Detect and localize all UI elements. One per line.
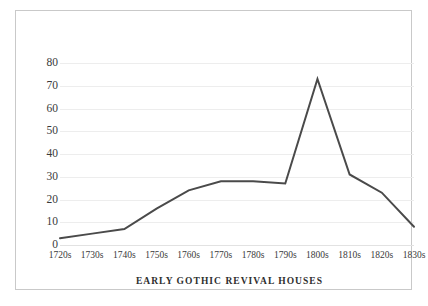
- line-series: [60, 63, 414, 245]
- y-tick-label-20: 20: [47, 194, 59, 206]
- x-tick-label-1770s: 1770s: [210, 251, 233, 261]
- y-axis-tick-labels: 01020304050607080: [31, 63, 58, 245]
- y-tick-label-80: 80: [47, 57, 59, 69]
- y-tick-label-30: 30: [47, 171, 59, 183]
- x-axis-tick-labels: 1720s1730s1740s1750s1760s1770s1780s1790s…: [60, 251, 414, 267]
- x-tick-label-1800s: 1800s: [306, 251, 329, 261]
- x-tick-label-1740s: 1740s: [113, 251, 136, 261]
- chart-figure: 01020304050607080 1720s1730s1740s1750s17…: [0, 0, 428, 306]
- x-tick-label-1830s: 1830s: [403, 251, 426, 261]
- x-tick-label-1790s: 1790s: [274, 251, 297, 261]
- x-tick-label-1760s: 1760s: [177, 251, 200, 261]
- chart-title: EARLY GOTHIC REVIVAL HOUSES: [32, 276, 427, 286]
- x-tick-label-1810s: 1810s: [338, 251, 361, 261]
- series-polyline: [60, 79, 414, 238]
- gridline-0: [60, 245, 414, 246]
- y-tick-label-50: 50: [47, 126, 59, 138]
- y-tick-label-10: 10: [47, 217, 59, 229]
- x-tick-label-1820s: 1820s: [370, 251, 393, 261]
- x-tick-label-1750s: 1750s: [145, 251, 168, 261]
- plot-area: [60, 63, 414, 245]
- x-tick-label-1720s: 1720s: [49, 251, 72, 261]
- chart-frame: 01020304050607080 1720s1730s1740s1750s17…: [15, 10, 412, 290]
- x-tick-label-1730s: 1730s: [81, 251, 104, 261]
- y-tick-label-40: 40: [47, 148, 59, 160]
- y-tick-label-60: 60: [47, 103, 59, 115]
- x-tick-label-1780s: 1780s: [242, 251, 265, 261]
- y-tick-label-70: 70: [47, 80, 59, 92]
